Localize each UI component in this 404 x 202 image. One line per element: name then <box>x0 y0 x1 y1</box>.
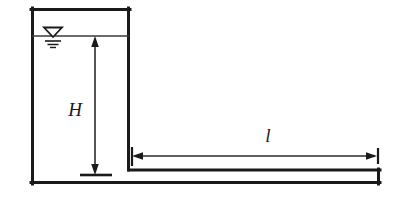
water-surface-symbol <box>44 28 62 48</box>
head-dimension-arrowhead-up <box>91 36 99 47</box>
outlet-pipe <box>129 169 380 184</box>
reservoir-pipe-diagram: H l <box>0 0 404 202</box>
head-label: H <box>67 99 83 120</box>
reservoir-tank <box>31 8 131 184</box>
head-dimension: H <box>67 36 112 175</box>
pipe-length-dimension: l <box>132 125 378 166</box>
length-dimension-arrowhead-left <box>132 152 143 160</box>
head-dimension-arrowhead-down <box>91 164 99 175</box>
length-dimension-arrowhead-right <box>366 152 377 160</box>
pipe-length-label: l <box>265 125 270 146</box>
diagram-canvas: H l <box>0 0 404 202</box>
